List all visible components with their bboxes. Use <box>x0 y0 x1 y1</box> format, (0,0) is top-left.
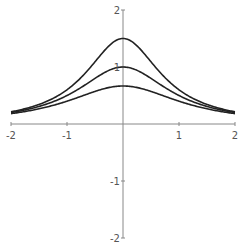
x-tick-label: -1 <box>62 130 72 141</box>
y-tick-label: 1 <box>114 62 120 73</box>
x-tick-label: 2 <box>232 130 238 141</box>
plot-area: -2-112-2-112 <box>0 0 249 251</box>
y-tick-label: -2 <box>110 233 120 244</box>
chart-svg: -2-112-2-112 <box>0 0 249 251</box>
x-tick-label: 1 <box>176 130 182 141</box>
axes <box>11 10 235 238</box>
y-tick-label: -1 <box>110 176 120 187</box>
x-tick-label: -2 <box>6 130 16 141</box>
y-tick-label: 2 <box>114 5 120 16</box>
